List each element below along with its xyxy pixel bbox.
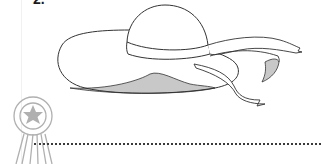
hat-crown xyxy=(127,5,208,45)
brim-shade xyxy=(70,73,215,93)
sun-hat-illustration xyxy=(0,0,321,164)
answer-dotted-line[interactable] xyxy=(34,143,321,145)
ribbon-upper-tail xyxy=(208,37,302,55)
award-rosette-icon xyxy=(14,97,52,164)
ribbon-lower-tail xyxy=(194,64,265,106)
ribbon-shade xyxy=(262,59,279,82)
